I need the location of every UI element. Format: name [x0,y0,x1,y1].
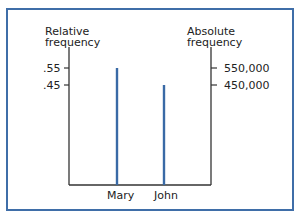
category-label-john: John [153,189,178,202]
category-label-mary: Mary [107,189,135,202]
chart: Relative frequency Absolute frequency .5… [0,0,300,215]
left-axis-label-2: frequency [45,36,101,49]
right-tick-label-450000: 450,000 [224,79,270,92]
left-tick-label-55: .55 [43,62,61,75]
right-axis-label-2: frequency [187,36,243,49]
left-tick-label-45: .45 [43,79,61,92]
right-tick-label-550000: 550,000 [224,62,270,75]
